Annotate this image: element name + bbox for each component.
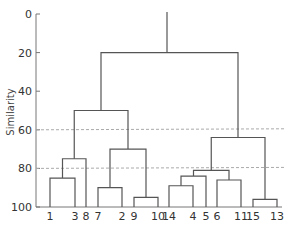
reference-line [36,167,286,168]
leaf-label: 3 [72,210,79,223]
merge-link [74,111,128,159]
leaf-label: 5 [203,210,210,223]
y-tick-label: 60 [18,124,32,137]
leaf-label: 9 [131,210,138,223]
merge-link [194,170,230,180]
y-tick-label: 80 [18,162,32,175]
leaf-label: 7 [95,210,102,223]
merge-link [50,178,75,207]
dendrogram-tree [50,12,277,207]
dendrogram-chart: 020406080100 1387291014456111513 Similar… [0,0,294,232]
merge-link [253,199,277,207]
merge-link [110,149,146,197]
y-tick-label: 100 [11,201,32,214]
merge-link [101,53,238,138]
y-tick-label: 0 [25,8,32,21]
reference-lines [36,129,286,169]
y-tick-label: 20 [18,47,32,60]
merge-link [169,186,193,207]
leaf-label: 1 [47,210,54,223]
reference-line [36,129,286,130]
leaf-label: 4 [190,210,197,223]
merge-link [211,138,265,200]
leaf-label: 2 [119,210,126,223]
merge-link [217,180,241,207]
leaf-label: 13 [270,210,284,223]
y-tick-label: 40 [18,85,32,98]
merge-link [134,197,158,207]
merge-link [63,159,87,207]
y-axis-label: Similarity [5,88,16,135]
leaf-labels: 1387291014456111513 [47,210,285,223]
leaf-label: 6 [214,210,221,223]
leaf-label: 14 [162,210,176,223]
leaf-label: 8 [83,210,90,223]
leaf-label: 15 [246,210,260,223]
merge-link [98,188,122,207]
